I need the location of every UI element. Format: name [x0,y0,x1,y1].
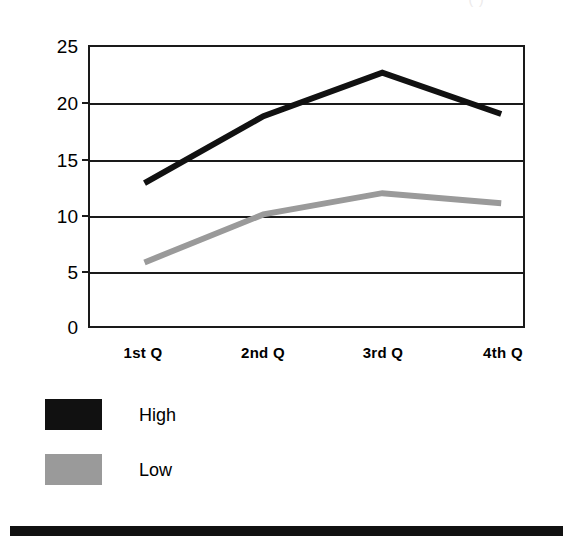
y-axis-tick-label: 15 [18,151,78,170]
clipped-title-fragment: ( ) [380,0,573,7]
x-axis-tick-label: 4th Q [448,344,558,362]
chart-figure: ( ) 25 20 15 10 5 0 1st Q 2nd Q 3rd Q 4t… [0,0,573,539]
x-axis-tick-label: 1st Q [88,344,198,362]
plot-area [88,45,525,328]
legend-label-high: High [139,403,176,427]
x-axis-tick-label: 3rd Q [328,344,438,362]
y-axis-tick-label: 10 [18,207,78,226]
series-line-low [144,193,501,262]
y-axis-tick-label: 25 [18,37,78,56]
y-axis-tick-label: 0 [18,318,78,337]
series-line-high [144,73,501,183]
legend-label-low: Low [139,458,172,482]
legend-swatch-high [45,399,102,430]
legend-swatch-low [45,454,102,485]
y-axis-tick-label: 5 [18,263,78,282]
series-lines [90,47,523,326]
x-axis-tick-label: 2nd Q [208,344,318,362]
bottom-rule [10,526,563,536]
y-axis-tick-label: 20 [18,94,78,113]
